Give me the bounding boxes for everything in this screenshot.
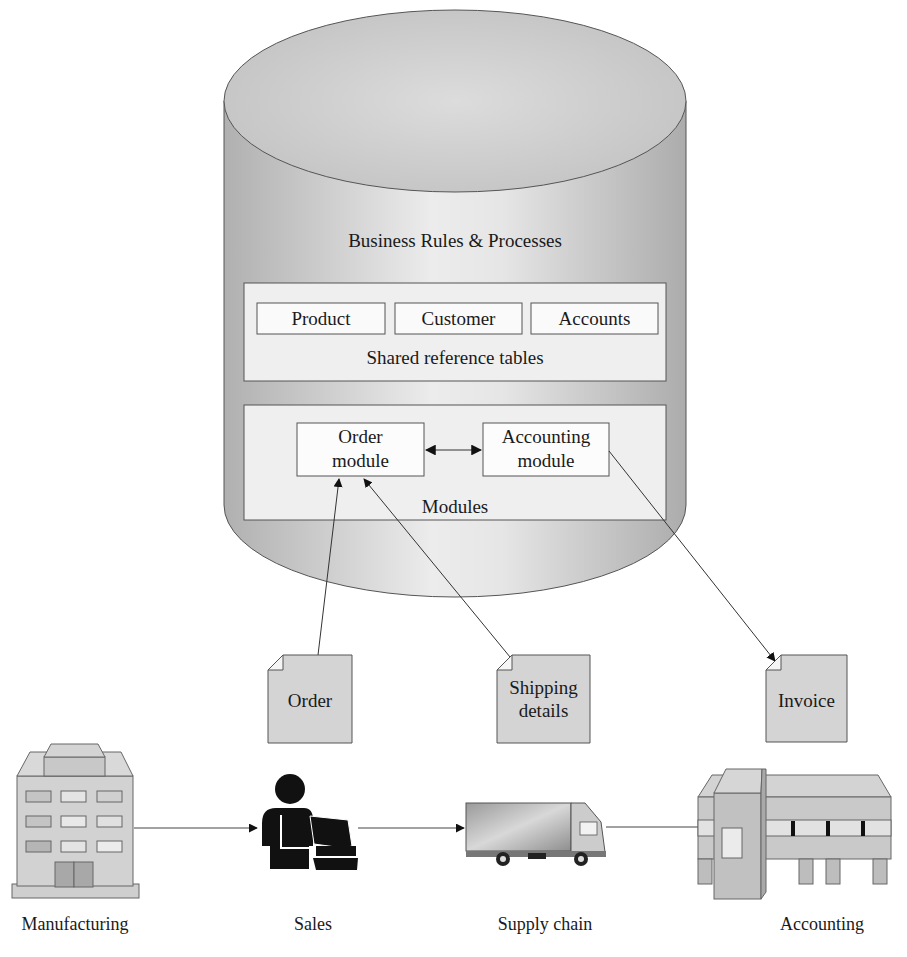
table-product-label: Product <box>257 308 385 330</box>
document-shipping-line1: Shipping <box>497 677 590 699</box>
department-accounting-label: Accounting <box>752 914 892 935</box>
document-shipping-line2: details <box>497 700 590 722</box>
accounting-module-line2: module <box>483 450 609 472</box>
warehouse-icon <box>698 769 891 899</box>
document-shipping-details <box>497 655 590 743</box>
order-module-line2: module <box>297 450 424 472</box>
delivery-truck-icon <box>466 803 606 866</box>
database-title: Business Rules & Processes <box>224 230 686 252</box>
document-order-label: Order <box>268 690 352 712</box>
diagram-canvas <box>0 0 907 957</box>
order-module-line1: Order <box>297 426 424 448</box>
modules-caption: Modules <box>244 496 666 518</box>
shared-tables-caption: Shared reference tables <box>244 347 666 369</box>
table-accounts-label: Accounts <box>531 308 658 330</box>
salesperson-computer-icon <box>262 774 358 870</box>
document-invoice-label: Invoice <box>766 690 847 712</box>
department-manufacturing-label: Manufacturing <box>0 914 150 935</box>
department-sales-label: Sales <box>263 914 363 935</box>
table-customer-label: Customer <box>395 308 522 330</box>
department-supply-chain-label: Supply chain <box>475 914 615 935</box>
accounting-module-line1: Accounting <box>483 426 609 448</box>
factory-building-icon <box>12 744 139 898</box>
